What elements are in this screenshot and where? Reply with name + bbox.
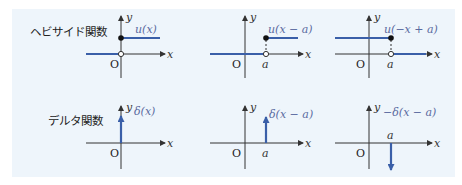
plot-delta-x: y δ(x) O x — [86, 101, 174, 169]
svg-text:O: O — [110, 147, 119, 160]
plot-neg-delta-x-minus-a: y −δ(x − a) O a x — [335, 101, 441, 170]
svg-text:a: a — [387, 58, 394, 71]
svg-text:δ(x − a): δ(x − a) — [269, 108, 313, 121]
svg-text:a: a — [387, 129, 394, 142]
svg-text:δ(x): δ(x) — [134, 105, 155, 118]
svg-text:u(−x + a): u(−x + a) — [384, 23, 438, 36]
svg-text:x: x — [434, 48, 441, 61]
svg-text:x: x — [167, 137, 174, 150]
svg-text:u(x − a): u(x − a) — [268, 23, 313, 36]
svg-text:a: a — [262, 147, 269, 160]
svg-text:y: y — [373, 101, 381, 114]
svg-text:y: y — [125, 11, 133, 24]
svg-text:x: x — [305, 137, 312, 150]
svg-text:u(x): u(x) — [135, 23, 157, 36]
svg-text:a: a — [262, 58, 269, 71]
svg-text:y: y — [373, 11, 381, 24]
function-plots: y u(x) O x y u(x − a) O a x y u(−x + a) … — [0, 0, 462, 185]
plot-u-x-minus-a: y u(x − a) O a x — [210, 11, 313, 78]
svg-text:x: x — [167, 48, 174, 61]
svg-text:O: O — [232, 147, 241, 160]
plot-u-x: y u(x) O x — [86, 11, 174, 78]
svg-text:x: x — [305, 48, 312, 61]
svg-text:O: O — [232, 58, 241, 71]
plot-u-neg-x-plus-a: y u(−x + a) O a x — [335, 11, 441, 78]
svg-text:O: O — [356, 147, 365, 160]
svg-text:O: O — [110, 58, 119, 71]
svg-text:x: x — [434, 137, 441, 150]
svg-text:y: y — [249, 101, 257, 114]
svg-text:y: y — [249, 11, 257, 24]
svg-text:O: O — [356, 58, 365, 71]
plot-delta-x-minus-a: y δ(x − a) O a x — [210, 101, 313, 169]
svg-text:y: y — [125, 101, 133, 114]
svg-text:−δ(x − a): −δ(x − a) — [383, 106, 436, 119]
